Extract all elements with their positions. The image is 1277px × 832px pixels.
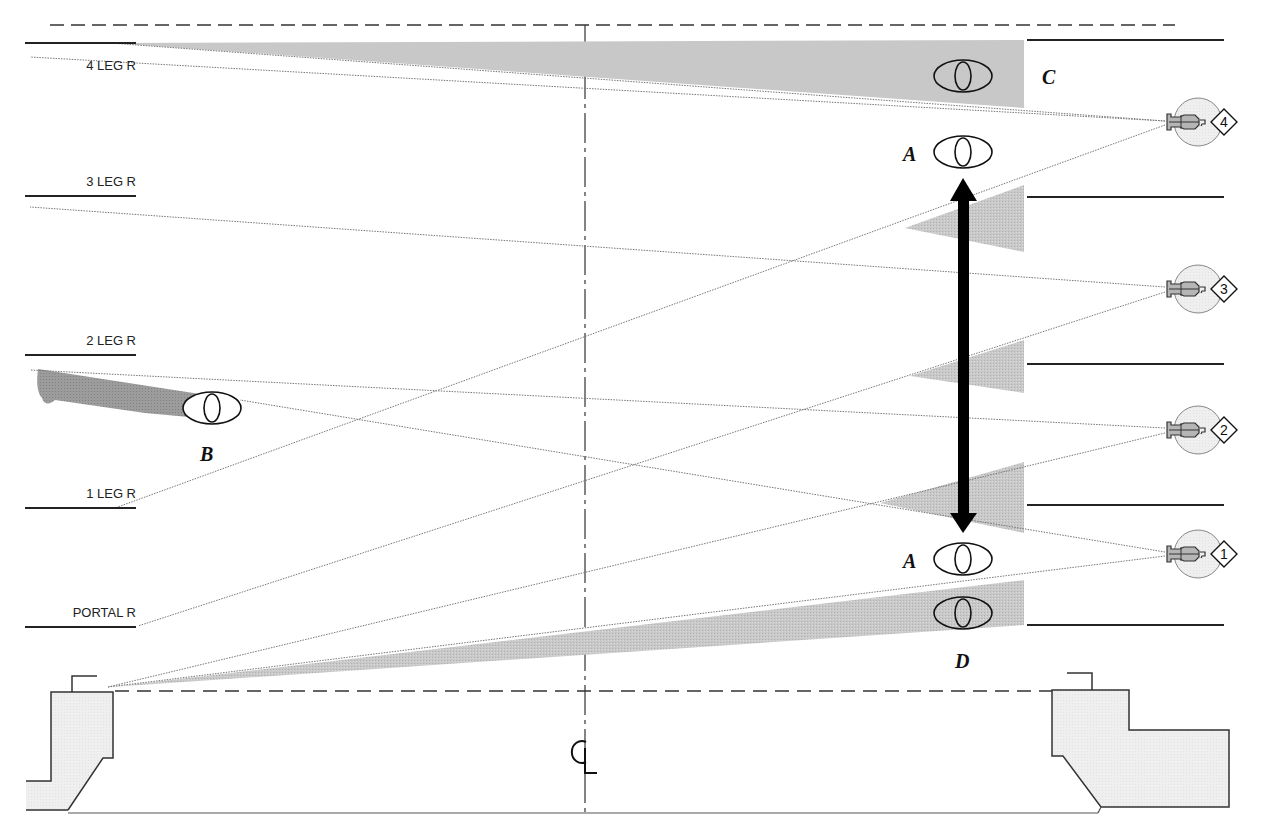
- leg-label-portal: PORTAL R: [73, 605, 136, 620]
- instrument-1[interactable]: 1: [1167, 530, 1237, 578]
- proscenium-left: [26, 676, 113, 811]
- instrument-number: 1: [1220, 546, 1228, 562]
- leg-label-2: 2 LEG R: [86, 333, 136, 348]
- instrument-4[interactable]: 4: [1167, 98, 1237, 146]
- eye-icon-a-lower: [934, 543, 992, 575]
- instrument-number: 4: [1220, 114, 1228, 130]
- area-label-d: D: [954, 650, 969, 672]
- eye-icon-a-upper: [934, 136, 992, 168]
- instrument-number: 3: [1220, 281, 1228, 297]
- leg-label-1: 1 LEG R: [86, 486, 136, 501]
- instrument-2[interactable]: 2: [1167, 406, 1237, 454]
- legs-left: 4 LEG R 3 LEG R 2 LEG R 1 LEG R PORTAL R: [25, 43, 136, 627]
- eye-icon-b: [183, 392, 241, 424]
- area-label-c: C: [1042, 66, 1056, 88]
- leg-label-3: 3 LEG R: [86, 174, 136, 189]
- leg-label-4: 4 LEG R: [86, 58, 136, 73]
- area-label-b: B: [199, 443, 213, 465]
- proscenium-right: [1052, 673, 1229, 813]
- beam-shading: [37, 40, 1024, 687]
- instrument-number: 2: [1220, 422, 1228, 438]
- area-label-a-upper: A: [901, 143, 916, 165]
- stage-diagram: 4 LEG R 3 LEG R 2 LEG R 1 LEG R PORTAL R: [0, 0, 1277, 832]
- area-label-a-lower: A: [901, 550, 916, 572]
- instrument-3[interactable]: 3: [1167, 265, 1237, 313]
